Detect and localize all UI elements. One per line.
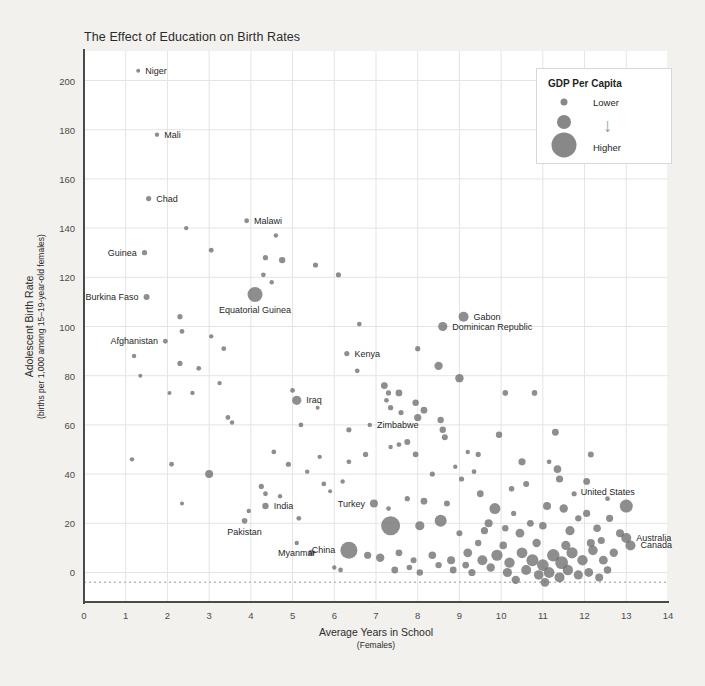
x-tick-label: 1 (123, 610, 128, 621)
data-point-label: Mali (164, 130, 181, 140)
legend-label-higher: Higher (593, 142, 621, 153)
legend-label-lower: Lower (593, 97, 619, 108)
legend-title: GDP Per Capita (548, 78, 622, 89)
data-point-label: Chad (156, 194, 178, 204)
y-tick-label: 100 (59, 321, 75, 332)
x-tick-label: 14 (663, 610, 674, 621)
y-tick-label: 60 (64, 419, 75, 430)
y-tick-label: 200 (59, 75, 75, 86)
y-tick-label: 80 (64, 370, 75, 381)
legend-dot-medium (557, 115, 571, 129)
x-tick-label: 13 (621, 610, 632, 621)
x-tick-label: 11 (538, 610, 548, 621)
data-point-label: Kenya (354, 349, 380, 359)
x-axis-label: Average Years in School (Females) (84, 626, 668, 650)
y-axis-line (83, 49, 85, 604)
chart-page: The Effect of Education on Birth Rates A… (0, 0, 705, 686)
x-tick-label: 3 (206, 610, 211, 621)
data-point-label: Guinea (108, 248, 137, 258)
data-point-label: Afghanistan (110, 336, 158, 346)
data-point-label: Turkey (338, 499, 365, 509)
data-point-label: Myanmar (278, 548, 316, 558)
y-axis-label-sub: (births per 1,000 among 15–19-year-old f… (36, 234, 46, 419)
data-point-label: Equatorial Guinea (219, 305, 291, 315)
y-axis-label-main: Adolescent Birth Rate (23, 276, 35, 378)
y-tick-label: 0 (70, 567, 75, 578)
x-tick-label: 2 (165, 610, 170, 621)
data-point-label: Canada (640, 540, 672, 550)
legend-dot-large (552, 133, 577, 158)
x-axis-label-sub: (Females) (84, 640, 668, 650)
data-point-label: Zimbabwe (377, 420, 419, 430)
x-tick-label: 10 (496, 610, 507, 621)
legend-arrow-icon: ↓ (603, 116, 613, 135)
x-axis-line (83, 601, 669, 603)
data-point-label: Iraq (306, 395, 322, 405)
data-point-label: United States (581, 487, 635, 497)
y-tick-label: 180 (59, 124, 75, 135)
x-tick-label: 9 (457, 610, 462, 621)
y-tick-label: 140 (59, 223, 75, 234)
y-tick-label: 20 (64, 518, 75, 529)
data-point-label: China (312, 545, 336, 555)
y-tick-label: 40 (64, 469, 75, 480)
x-tick-label: 5 (290, 610, 295, 621)
x-tick-label: 7 (373, 610, 378, 621)
x-tick-label: 8 (415, 610, 420, 621)
x-tick-label: 6 (332, 610, 337, 621)
x-tick-label: 12 (579, 610, 590, 621)
y-tick-label: 120 (59, 272, 75, 283)
x-axis-label-main: Average Years in School (84, 626, 668, 638)
data-point-label: Gabon (474, 312, 501, 322)
data-point-label: Dominican Republic (452, 322, 532, 332)
data-point-label: Pakistan (227, 527, 262, 537)
x-tick-label: 0 (81, 610, 86, 621)
data-point-label: India (274, 501, 294, 511)
legend: GDP Per Capita Lower Higher ↓ (536, 68, 672, 164)
data-point-label: Malawi (254, 216, 282, 226)
data-point-label: Burkina Faso (86, 292, 139, 302)
data-point-label: Niger (145, 66, 167, 76)
y-axis-label: Adolescent Birth Rate (births per 1,000 … (20, 51, 48, 602)
legend-dot-small (561, 99, 568, 106)
x-tick-label: 4 (248, 610, 253, 621)
page-title: The Effect of Education on Birth Rates (84, 30, 300, 44)
y-tick-label: 160 (59, 173, 75, 184)
